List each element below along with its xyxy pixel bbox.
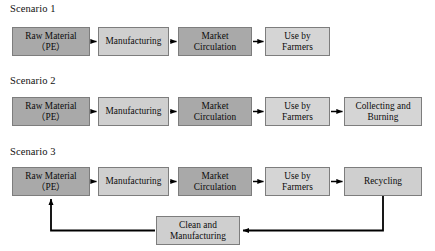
scenario-2-node-raw-material: Raw Material （PE） bbox=[12, 97, 90, 126]
scenario-1-node-raw-material: Raw Material （PE） bbox=[12, 27, 90, 56]
scenario-3-node-market-circulation: Market Circulation bbox=[178, 167, 252, 196]
scenario-3-label: Scenario 3 bbox=[10, 146, 56, 158]
scenario-2-node-collecting-and-burning: Collecting and Burning bbox=[344, 97, 422, 126]
scenario-2-node-use-by-farmers: Use by Farmers bbox=[265, 97, 330, 126]
scenario-3-node-clean-and-manufacturing: Clean and Manufacturing bbox=[156, 216, 240, 245]
arrow-clean-manufacturing-to-raw-material bbox=[51, 199, 155, 231]
scenario-1-node-manufacturing: Manufacturing bbox=[98, 27, 169, 56]
scenario-3-node-raw-material: Raw Material （PE） bbox=[12, 167, 90, 196]
scenario-1-node-market-circulation: Market Circulation bbox=[178, 27, 252, 56]
scenario-1-label: Scenario 1 bbox=[10, 3, 56, 15]
scenario-3-node-use-by-farmers: Use by Farmers bbox=[265, 167, 330, 196]
scenario-2-node-manufacturing: Manufacturing bbox=[98, 97, 169, 126]
arrow-recycling-to-clean-manufacturing bbox=[243, 196, 383, 231]
scenario-3-node-recycling: Recycling bbox=[344, 167, 422, 196]
scenario-3-node-manufacturing: Manufacturing bbox=[98, 167, 169, 196]
scenario-2-label: Scenario 2 bbox=[10, 75, 56, 87]
scenario-1-node-use-by-farmers: Use by Farmers bbox=[265, 27, 330, 56]
scenario-2-node-market-circulation: Market Circulation bbox=[178, 97, 252, 126]
process-flow-diagram: Scenario 1 Raw Material （PE） Manufacturi… bbox=[0, 0, 435, 251]
